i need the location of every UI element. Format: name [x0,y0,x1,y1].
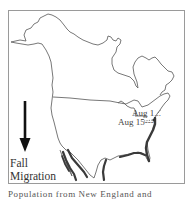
route-gulf-coast [120,153,145,157]
coastline-gulf [62,118,155,178]
legend-line-2: Migration [10,170,56,183]
route-mexico-gulf [103,160,106,180]
legend-fall-migration: Fall Migration [10,157,56,183]
coastline-labrador [133,56,174,95]
map-caption: Population from New England and [8,189,152,199]
border-us-canada [53,96,160,107]
arrow-down-icon [20,101,31,152]
coastline-west [11,42,62,146]
date-label-aug15: Aug 15--- [118,117,154,127]
coastline-north [11,14,138,88]
legend-line-1: Fall [10,157,56,170]
